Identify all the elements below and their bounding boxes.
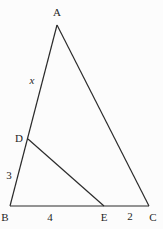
vertex-a-label: A: [53, 6, 61, 18]
segment-ec-length-label: 2: [127, 210, 133, 222]
segment-db-length-label: 3: [6, 169, 12, 181]
triangle-figure: A B C D E x 3 4 2: [0, 0, 163, 229]
point-d-label: D: [15, 132, 23, 144]
vertex-c-label: C: [149, 211, 156, 223]
segment-be-length-label: 4: [47, 211, 53, 223]
geometry-diagram: A B C D E x 3 4 2: [0, 0, 163, 229]
vertex-b-label: B: [1, 211, 8, 223]
side-ac-line: [57, 25, 149, 206]
segment-ad-length-label: x: [29, 74, 35, 86]
segment-de-line: [28, 139, 104, 206]
side-ab-line: [10, 25, 57, 206]
point-e-label: E: [101, 211, 108, 223]
